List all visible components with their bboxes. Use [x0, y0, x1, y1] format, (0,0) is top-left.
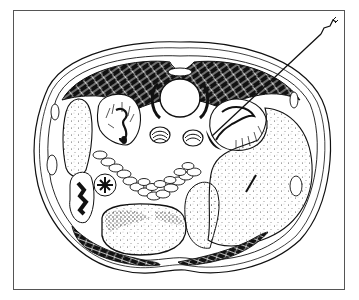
illustration-canvas — [0, 0, 359, 300]
great-vessels — [150, 127, 203, 146]
small-oval-right-upper — [290, 92, 298, 108]
small-oval-left-upper — [51, 104, 59, 120]
small-oval-right-lower — [290, 176, 302, 196]
spleen — [63, 99, 92, 177]
small-oval-left — [47, 155, 57, 175]
abdomen-cross-section — [0, 0, 359, 300]
kidney-left — [97, 94, 140, 145]
